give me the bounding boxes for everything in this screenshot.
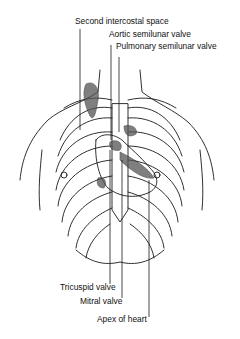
anatomy-diagram: Second intercostal space Aortic semiluna… [0, 0, 240, 339]
costal-margin [76, 250, 164, 264]
label-aortic-semilunar-valve: Aortic semilunar valve [109, 29, 191, 39]
nipple-left [61, 172, 67, 178]
label-apex-of-heart: Apex of heart [97, 314, 147, 324]
arm-left [39, 150, 42, 210]
pulmonary-area-shading [124, 125, 136, 135]
torso-outline-right [140, 70, 214, 180]
aortic-area-shading [84, 83, 98, 118]
label-pulmonary-semilunar-valve: Pulmonary semilunar valve [116, 41, 217, 51]
label-tricuspid-valve: Tricuspid valve [60, 282, 116, 292]
label-second-intercostal-space: Second intercostal space [75, 16, 169, 26]
clavicle-right [128, 98, 176, 108]
valve-center-shading [110, 141, 122, 151]
tricuspid-area-shading [97, 178, 105, 188]
arm-right [200, 150, 203, 210]
label-mitral-valve: Mitral valve [80, 296, 122, 306]
